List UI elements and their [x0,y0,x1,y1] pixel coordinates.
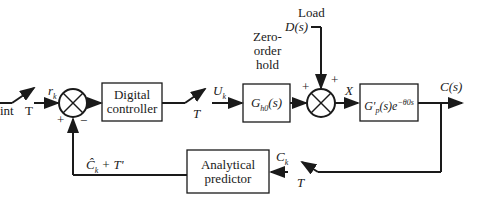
sampler-2-label: T [193,107,200,121]
setpoint-label: int [0,104,14,118]
zoh-caption: Zero- order hold [240,30,295,72]
zoh-transfer-function: Gh0(s) [243,96,290,116]
sampler-3-label: T [297,176,304,190]
ck-label: Ck [276,150,288,170]
plus-sign-1: + [57,113,64,127]
output-label: C(s) [440,80,462,94]
load-label: D(s) [285,20,308,34]
plus-sign-2b: + [331,73,338,87]
feedback-label: Ĉk + T' [86,158,124,178]
x-label: X [345,84,353,98]
uk-label: Uk [213,84,226,104]
minus-sign-1: − [80,114,87,128]
plant-transfer-function: G'p(s)e−θ0s [360,96,418,118]
load-title: Load [298,6,325,20]
analytical-predictor: Analytical predictor [187,158,269,186]
plus-sign-2a: + [302,80,309,94]
sampler-1-label: T [25,104,33,118]
sampler-1-switch [12,88,34,103]
rk-label: rk [48,84,57,104]
digital-controller: Digital controller [102,88,162,116]
